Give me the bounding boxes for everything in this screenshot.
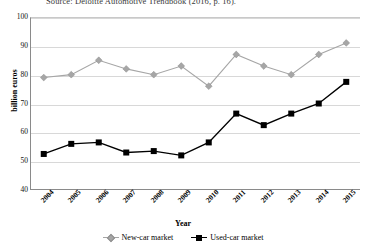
source-caption: Source: Deloitte Automotive Trendbook (2… <box>46 0 346 7</box>
data-point-marker <box>123 150 129 156</box>
data-point-marker <box>233 111 239 117</box>
legend-entry[interactable]: Used-car market <box>191 233 263 242</box>
data-point-marker <box>316 101 322 107</box>
series-line <box>44 43 347 86</box>
data-point-marker <box>178 152 184 158</box>
data-point-marker <box>68 71 75 78</box>
x-axis-tick-labels: 2004200520062007200820092010201120122013… <box>30 191 360 221</box>
data-point-marker <box>40 74 47 81</box>
y-axis-tick-labels: 405060708090100 <box>0 0 28 251</box>
y-axis-tick-label: 70 <box>6 100 28 108</box>
square-marker-icon <box>196 235 202 241</box>
data-point-marker <box>343 40 350 47</box>
data-point-marker <box>343 79 349 85</box>
chart-legend: New-car marketUsed-car market <box>0 233 366 242</box>
data-point-marker <box>261 122 267 128</box>
chart-figure: Source: Deloitte Automotive Trendbook (2… <box>0 0 366 251</box>
diamond-marker-icon <box>106 233 114 241</box>
data-point-marker <box>150 71 157 78</box>
data-point-marker <box>96 139 102 145</box>
legend-label: Used-car market <box>210 233 263 242</box>
data-point-marker <box>151 148 157 154</box>
y-axis-tick-label: 80 <box>6 71 28 79</box>
series-line <box>44 82 347 156</box>
data-point-marker <box>123 66 130 73</box>
data-point-marker <box>41 151 47 157</box>
y-axis-tick-label: 100 <box>6 13 28 21</box>
legend-swatch <box>103 233 119 242</box>
y-axis-tick-label: 50 <box>6 157 28 165</box>
data-point-marker <box>288 111 294 117</box>
y-axis-tick-label: 90 <box>6 42 28 50</box>
chart-series-layer <box>30 17 360 190</box>
legend-label: New-car market <box>122 233 174 242</box>
legend-entry[interactable]: New-car market <box>103 233 174 242</box>
x-axis-title: Year <box>0 219 366 228</box>
data-point-marker <box>68 141 74 147</box>
data-point-marker <box>260 63 267 70</box>
data-point-marker <box>206 139 212 145</box>
data-point-marker <box>95 57 102 64</box>
y-axis-tick-label: 40 <box>6 186 28 194</box>
legend-swatch <box>191 233 207 242</box>
y-axis-tick-label: 60 <box>6 128 28 136</box>
